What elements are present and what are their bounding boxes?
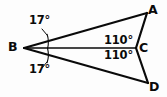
vertex-label-b: B bbox=[8, 41, 17, 54]
vertex-label-c: C bbox=[139, 42, 148, 55]
vertex-label-a: A bbox=[148, 4, 157, 17]
vertex-label-d: D bbox=[149, 81, 159, 94]
angle-label-bca: 110° bbox=[104, 35, 133, 47]
angle-label-abc: 17° bbox=[29, 15, 50, 27]
leader-line-angle-abc bbox=[42, 29, 47, 35]
angle-label-cbd: 17° bbox=[29, 64, 50, 76]
angle-label-bcd: 110° bbox=[104, 50, 133, 62]
geometry-figure: A B C D 17° 17° 110° 110° bbox=[0, 0, 167, 97]
